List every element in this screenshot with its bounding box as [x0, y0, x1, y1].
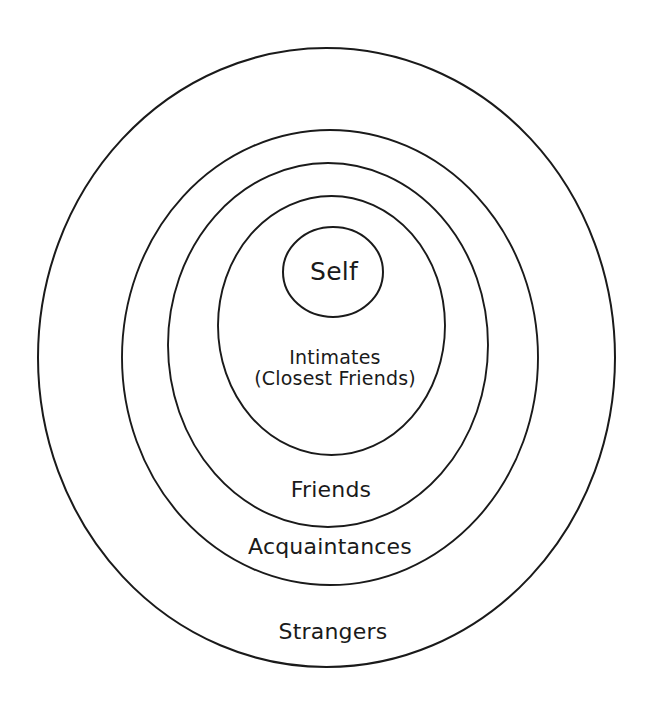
concentric-circles-graphic	[0, 0, 652, 708]
ring-strangers	[38, 48, 615, 667]
ring-friends	[168, 163, 488, 527]
ring-self	[283, 227, 383, 317]
ring-acquaintances	[122, 130, 538, 585]
ring-intimates	[218, 196, 445, 455]
social-circles-diagram: Self Intimates (Closest Friends) Friends…	[0, 0, 652, 708]
